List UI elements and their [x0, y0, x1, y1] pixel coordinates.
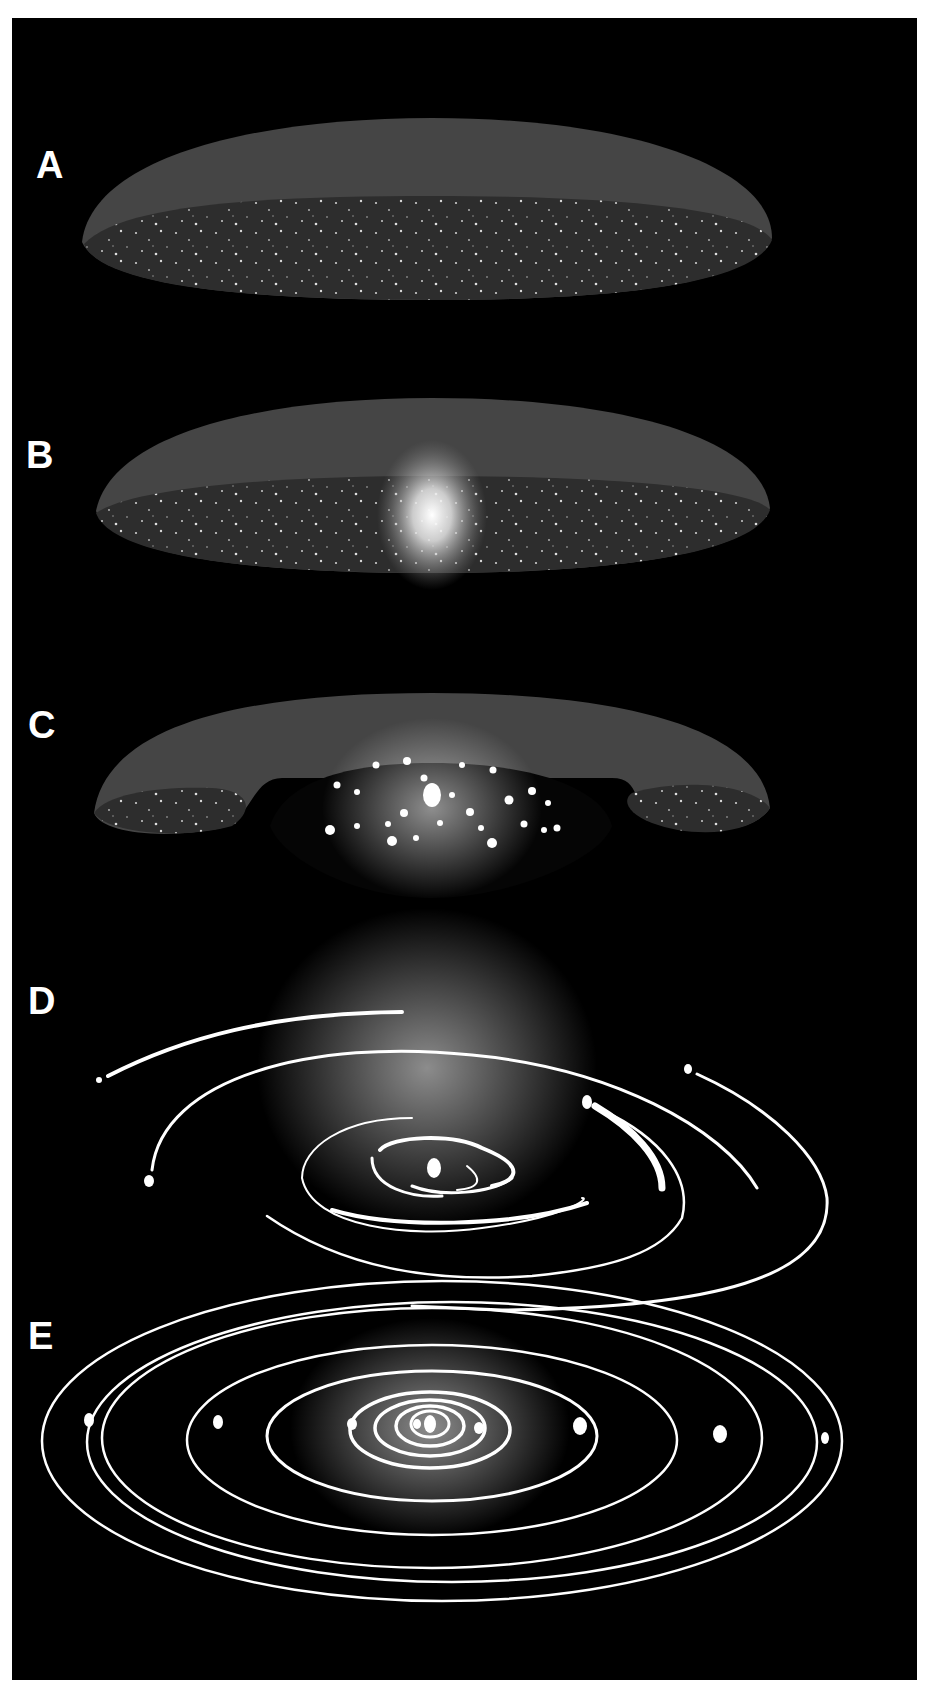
stage-label-d: D [28, 982, 55, 1020]
stage-d-orbits [96, 908, 827, 1310]
stage-label-e: E [28, 1317, 53, 1355]
stage-label-b: B [26, 436, 53, 474]
stage-label-a: A [36, 146, 63, 184]
stage-c-disk [94, 693, 770, 898]
protostar-glow [377, 440, 487, 590]
stage-b-disk [96, 398, 770, 590]
stage-label-c: C [28, 706, 55, 744]
illustration-panel: A B C D E [12, 18, 917, 1680]
stage-a-disk [82, 118, 772, 300]
formation-diagram [12, 18, 917, 1680]
stage-e-orbits [42, 1281, 842, 1601]
